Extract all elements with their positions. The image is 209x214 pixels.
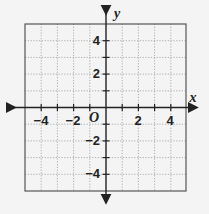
coordinate-plane: −4 −2 2 4 4 2 −2 −4 O x y: [0, 0, 209, 214]
x-tick-label: −4: [34, 113, 50, 128]
y-tick-label: −2: [85, 133, 100, 148]
x-axis-label: x: [189, 90, 197, 105]
x-tick-label: 2: [134, 113, 141, 128]
y-tick-label: −4: [85, 166, 101, 181]
x-tick-label: 4: [166, 113, 174, 128]
y-axis-label: y: [112, 6, 121, 21]
y-tick-label: 2: [93, 66, 100, 81]
coordinate-plane-figure: −4 −2 2 4 4 2 −2 −4 O x y: [0, 0, 209, 214]
y-tick-label: 4: [93, 33, 101, 48]
origin-label: O: [89, 110, 99, 125]
x-tick-label: −2: [66, 113, 81, 128]
